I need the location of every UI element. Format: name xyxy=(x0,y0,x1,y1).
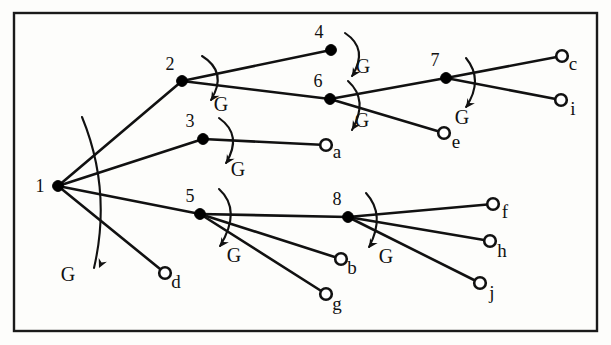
edge-5-b xyxy=(200,214,341,259)
leaf-node-f[interactable] xyxy=(487,198,499,210)
leaf-label-i: i xyxy=(570,98,575,119)
node-3[interactable] xyxy=(198,134,209,145)
leaf-node-c[interactable] xyxy=(556,50,568,62)
leaf-node-b[interactable] xyxy=(335,253,347,265)
edge-7-c xyxy=(446,56,562,78)
leaf-node-j[interactable] xyxy=(474,277,486,289)
leaf-node-g[interactable] xyxy=(320,288,332,300)
edge-6-e xyxy=(330,99,444,133)
g-annotation-layer xyxy=(82,33,475,270)
g-label-4: G xyxy=(356,55,370,77)
leaf-label-j: j xyxy=(488,282,494,303)
node-label-8: 8 xyxy=(333,189,342,209)
g-arc-5 xyxy=(219,189,231,246)
node-6[interactable] xyxy=(325,94,336,105)
edge-7-i xyxy=(446,78,561,100)
leaf-label-f: f xyxy=(502,201,509,222)
leaf-label-d: d xyxy=(171,271,181,292)
g-label-5: G xyxy=(227,244,241,266)
edge-1-3 xyxy=(58,139,203,186)
g-label-3: G xyxy=(231,158,245,180)
node-4[interactable] xyxy=(326,45,337,56)
edge-5-g xyxy=(200,214,326,294)
edge-layer xyxy=(58,50,562,294)
edge-8-f xyxy=(348,204,493,217)
g-label-8: G xyxy=(379,245,393,267)
node-label-5: 5 xyxy=(186,186,195,206)
leaf-node-a[interactable] xyxy=(320,139,332,151)
node-label-1: 1 xyxy=(36,176,45,196)
leaf-node-i[interactable] xyxy=(555,94,567,106)
node-label-2: 2 xyxy=(166,54,175,74)
leaf-node-d[interactable] xyxy=(159,267,171,279)
node-7[interactable] xyxy=(441,73,452,84)
edge-1-2 xyxy=(58,81,182,186)
tree-diagram: 12345678abcdefghijGGGGGGGG xyxy=(0,0,611,345)
g-label-6: G xyxy=(355,109,369,131)
figure-canvas: 12345678abcdefghijGGGGGGGG xyxy=(0,0,611,345)
leaf-label-g: g xyxy=(332,293,342,314)
leaf-label-a: a xyxy=(333,141,342,162)
node-layer xyxy=(53,45,568,300)
edge-2-6 xyxy=(182,81,330,99)
leaf-label-c: c xyxy=(569,53,577,74)
leaf-node-h[interactable] xyxy=(484,235,496,247)
node-label-3: 3 xyxy=(186,111,195,131)
node-label-6: 6 xyxy=(314,71,323,91)
edge-2-4 xyxy=(182,50,331,81)
node-1[interactable] xyxy=(53,181,64,192)
edge-1-5 xyxy=(58,186,200,214)
edge-3-a xyxy=(203,139,326,145)
node-8[interactable] xyxy=(343,212,354,223)
g-label-1: G xyxy=(61,263,75,285)
leaf-label-h: h xyxy=(497,240,507,261)
g-label-2: G xyxy=(214,93,228,115)
node-label-4: 4 xyxy=(315,22,324,42)
node-label-7: 7 xyxy=(431,50,440,70)
node-5[interactable] xyxy=(195,209,206,220)
leaf-label-b: b xyxy=(347,257,357,278)
leaf-label-e: e xyxy=(452,131,460,152)
edge-1-d xyxy=(58,186,165,273)
node-2[interactable] xyxy=(177,76,188,87)
edge-5-8 xyxy=(200,214,348,217)
g-label-7: G xyxy=(455,106,469,128)
leaf-node-e[interactable] xyxy=(438,127,450,139)
